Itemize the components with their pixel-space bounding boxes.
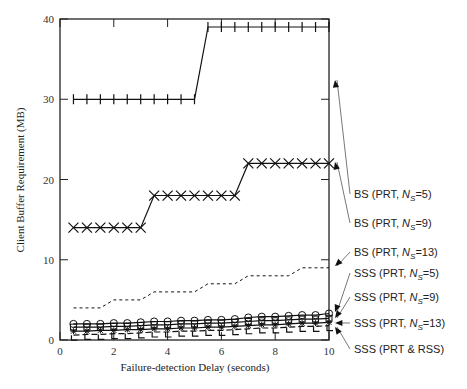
series-1 (68, 158, 334, 232)
arrowhead-icon (333, 80, 339, 88)
series-line (74, 27, 330, 99)
asterisk-marker (218, 324, 224, 330)
dash-marker (152, 332, 158, 337)
asterisk-marker (111, 327, 117, 333)
dash-marker (206, 330, 212, 335)
dash-marker (98, 334, 104, 339)
legend-entry: SSS (PRT, NS=13) (335, 317, 445, 332)
arrowhead-icon (334, 162, 340, 170)
legend-entry: SSS (PRT, NS=9) (335, 291, 439, 318)
x-axis-title: Failure-detection Delay (seconds) (120, 361, 269, 374)
plot-area (60, 19, 329, 340)
legend: BS (PRT, NS=5)BS (PRT, NS=9)BS (PRT, NS=… (333, 80, 445, 355)
asterisk-marker (97, 327, 103, 333)
legend-entry: BS (PRT, NS=5) (333, 80, 432, 203)
x-tick-label: 8 (272, 345, 278, 357)
arrowhead-icon (335, 320, 342, 326)
asterisk-marker (192, 325, 198, 331)
legend-entry: SSS (PRT, NS=5) (335, 267, 439, 312)
leader-line (337, 162, 350, 223)
dash-marker (179, 331, 185, 336)
asterisk-marker (84, 328, 90, 334)
chart: 0246810010203040 BS (PRT, NS=5)BS (PRT, … (0, 0, 467, 389)
dash-marker (125, 334, 131, 339)
asterisk-marker (299, 320, 305, 326)
asterisk-marker (138, 327, 144, 333)
asterisk-marker (232, 323, 238, 329)
y-tick-label: 30 (43, 93, 55, 105)
asterisk-marker (124, 327, 130, 333)
asterisk-marker (245, 323, 251, 329)
dash-marker (85, 334, 91, 339)
x-tick-label: 6 (219, 345, 225, 357)
series-line (74, 163, 330, 227)
legend-label: SSS (PRT, NS=5) (354, 267, 439, 282)
asterisk-marker (326, 319, 332, 325)
series-layer (68, 22, 334, 340)
legend-label: BS (PRT, NS=9) (354, 217, 432, 232)
dash-marker (287, 327, 293, 332)
legend-entry: SSS (PRT & RSS) (335, 327, 444, 355)
asterisk-marker (70, 328, 76, 334)
asterisk-marker (205, 324, 211, 330)
x-tick-label: 4 (165, 345, 171, 357)
legend-label: SSS (PRT & RSS) (354, 343, 444, 355)
legend-label: BS (PRT, NS=13) (354, 246, 438, 261)
dash-marker (112, 334, 118, 339)
y-tick-label: 10 (43, 254, 55, 266)
dash-marker (139, 333, 145, 338)
dash-marker (260, 328, 266, 333)
dash-marker (327, 326, 333, 331)
legend-entry: BS (PRT, NS=13) (335, 246, 438, 266)
asterisk-marker (272, 322, 278, 328)
arrowhead-icon (335, 259, 343, 266)
dash-marker (314, 326, 320, 331)
y-tick-label: 20 (43, 174, 55, 186)
legend-label: SSS (PRT, NS=9) (354, 291, 439, 306)
dash-marker (300, 326, 306, 331)
asterisk-marker (165, 326, 171, 332)
legend-label: BS (PRT, NS=5) (354, 188, 432, 203)
x-tick-label: 0 (57, 345, 63, 357)
y-tick-label: 40 (43, 13, 55, 25)
series-line (74, 268, 330, 308)
series-2 (74, 268, 330, 308)
x-tick-label: 10 (324, 345, 336, 357)
plot-border (60, 19, 329, 340)
dash-marker (233, 330, 239, 335)
dash-marker (166, 332, 172, 337)
x-tick-label: 2 (111, 345, 117, 357)
asterisk-marker (151, 326, 157, 332)
series-0 (73, 22, 329, 104)
dash-marker (246, 329, 252, 334)
legend-label: SSS (PRT, NS=13) (354, 317, 445, 332)
dash-marker (193, 331, 199, 336)
dash-marker (219, 330, 225, 335)
axes: 0246810010203040 (43, 13, 335, 357)
y-axis-title: Client Buffer Requirement (MB) (14, 107, 27, 252)
series-3 (70, 310, 333, 328)
asterisk-marker (178, 325, 184, 331)
asterisk-marker (259, 322, 265, 328)
dash-marker (273, 328, 279, 333)
asterisk-marker (286, 321, 292, 327)
y-tick-label: 0 (49, 334, 55, 346)
leader-line (337, 80, 350, 194)
asterisk-marker (313, 320, 319, 326)
